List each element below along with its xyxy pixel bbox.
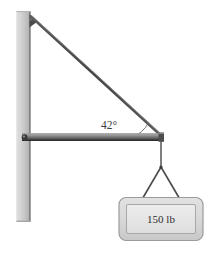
sling-left: [143, 167, 162, 199]
sling-right: [161, 167, 180, 199]
horizontal-beam: [22, 133, 164, 142]
support-cable: [31, 16, 161, 135]
sling: [141, 165, 181, 200]
angle-label: 42°: [101, 119, 118, 131]
load-box: 150 lb: [119, 198, 203, 241]
figure-canvas: 42° 150 lb: [0, 0, 211, 253]
statics-figure: 42° 150 lb: [0, 0, 211, 253]
wall-post: [17, 11, 31, 222]
load-label: 150 lb: [147, 213, 175, 225]
pin-joint: [22, 134, 28, 140]
sling-knot: [159, 165, 162, 168]
